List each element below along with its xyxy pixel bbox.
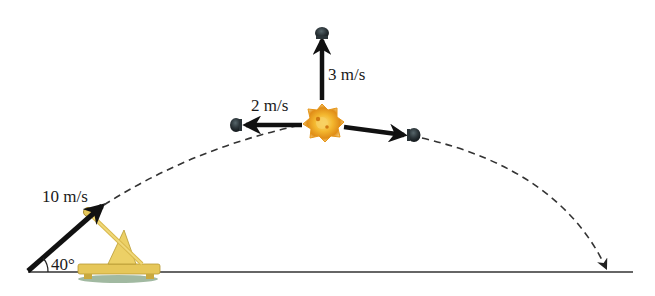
fragment-up-icon <box>315 27 329 39</box>
trajectory-before-explosion <box>104 126 296 205</box>
fragment-right-icon <box>407 128 421 142</box>
launch-angle-label: 40° <box>51 256 75 273</box>
fragment-up-speed-label: 3 m/s <box>328 66 365 83</box>
fragment-left-speed-label: 2 m/s <box>251 97 288 114</box>
fragment-right-arrow <box>344 127 404 135</box>
projectile-explosion-diagram: 10 m/s 40° 3 m/s 2 m/s <box>0 0 655 296</box>
launch-speed-label: 10 m/s <box>42 188 88 205</box>
explosion-icon <box>303 104 344 142</box>
trajectory-right-fragment <box>422 138 606 268</box>
fragment-left-icon <box>230 118 242 132</box>
